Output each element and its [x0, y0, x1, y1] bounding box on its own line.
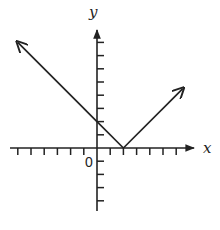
- x-axis-label: x: [203, 139, 212, 157]
- origin-label: 0: [85, 154, 93, 170]
- left-branch-line: [18, 42, 124, 148]
- y-axis-label: y: [88, 3, 98, 21]
- absolute-value-graph: x y 0: [0, 0, 220, 230]
- x-axis: [10, 148, 194, 155]
- right-branch-line: [123, 89, 182, 148]
- y-axis: [97, 30, 104, 211]
